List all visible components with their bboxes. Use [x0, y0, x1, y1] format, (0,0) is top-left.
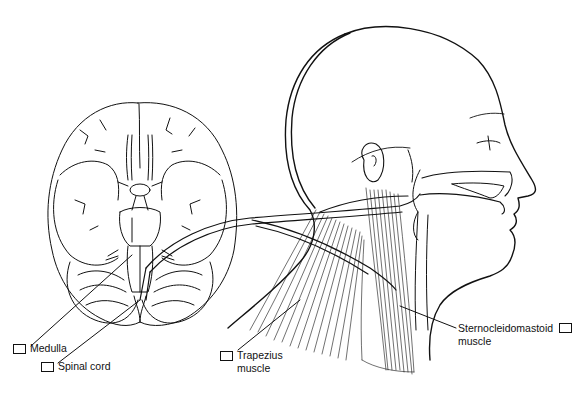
sternocleidomastoid-label-line2: muscle: [458, 335, 491, 348]
trapezius-muscle-drawing: [250, 210, 364, 360]
trapezius-label-line2: muscle: [237, 362, 270, 375]
medulla-checkbox[interactable]: [13, 344, 26, 354]
trapezius-label-line1: Trapezius: [237, 349, 283, 362]
brain-inferior-view: [48, 103, 237, 326]
sternocleidomastoid-label-line1: Sternocleidomastoid: [458, 322, 553, 335]
trapezius-checkbox[interactable]: [220, 351, 233, 361]
medulla-label-text: Medulla: [30, 342, 67, 355]
spinal-cord-checkbox[interactable]: [41, 362, 54, 372]
sternocleidomastoid-checkbox[interactable]: [559, 323, 572, 333]
accessory-nerve: [140, 194, 420, 300]
spinal-cord-label-text: Spinal cord: [58, 360, 111, 373]
